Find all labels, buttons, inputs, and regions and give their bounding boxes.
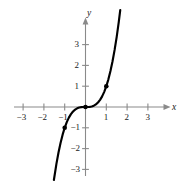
cubic-function-plot bbox=[0, 0, 183, 189]
x-tick-label: −1 bbox=[58, 113, 68, 122]
x-axis-label: x bbox=[172, 103, 176, 113]
graph-figure: −3−2−1123−3−2−1123 x y bbox=[0, 0, 183, 189]
x-tick-label: −2 bbox=[37, 113, 47, 122]
y-tick-label: 3 bbox=[75, 40, 80, 49]
cubic-curve bbox=[54, 10, 120, 180]
x-tick-label: 2 bbox=[125, 113, 130, 122]
x-tick-label: 3 bbox=[145, 113, 150, 122]
y-tick-label: −1 bbox=[71, 123, 81, 132]
y-axis-label: y bbox=[87, 9, 91, 19]
y-tick-label: 1 bbox=[75, 82, 80, 91]
axes bbox=[14, 18, 171, 177]
y-tick-label: −3 bbox=[71, 165, 81, 174]
y-tick-label: −2 bbox=[71, 144, 81, 153]
y-tick-label: 2 bbox=[75, 61, 80, 70]
x-tick-label: 1 bbox=[104, 113, 109, 122]
x-tick-label: −3 bbox=[17, 113, 27, 122]
